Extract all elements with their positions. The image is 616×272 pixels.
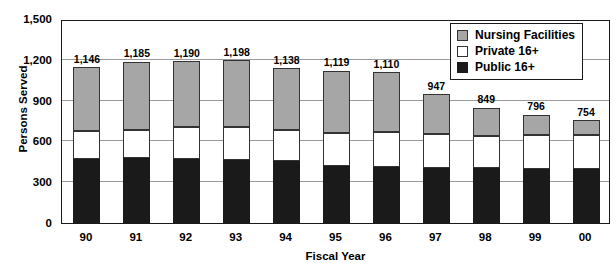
bar-segment-public-16-plus[interactable]	[323, 166, 350, 223]
bar-segment-public-16-plus[interactable]	[573, 169, 600, 223]
x-axis-tick-label-92: 92	[166, 232, 206, 244]
bar-segment-private-16-plus[interactable]	[123, 130, 150, 159]
bar-segment-private-16-plus[interactable]	[73, 131, 100, 159]
bar-value-label: 1,110	[360, 59, 412, 70]
y-axis-tick-label: 0	[6, 218, 52, 230]
y-axis-tick-labels: 03006009001,2001,500	[6, 0, 52, 272]
bar-segment-private-16-plus[interactable]	[423, 134, 450, 168]
x-axis-tick-label-98: 98	[465, 232, 505, 244]
x-axis-tick-label-91: 91	[116, 232, 156, 244]
bar-segment-public-16-plus[interactable]	[273, 161, 300, 223]
bar-segment-public-16-plus[interactable]	[523, 169, 550, 223]
bar-segment-nursing-facilities[interactable]	[323, 71, 350, 133]
bar-segment-private-16-plus[interactable]	[223, 127, 250, 160]
legend-item-label: Public 16+	[475, 61, 535, 73]
bar-97[interactable]	[423, 94, 450, 223]
bar-segment-private-16-plus[interactable]	[573, 135, 600, 169]
bar-segment-nursing-facilities[interactable]	[273, 68, 300, 130]
y-axis-tick-label: 1,500	[6, 14, 52, 26]
chart-legend: Nursing FacilitiesPrivate 16+Public 16+	[450, 23, 583, 80]
bar-segment-private-16-plus[interactable]	[523, 135, 550, 168]
bar-segment-nursing-facilities[interactable]	[423, 94, 450, 133]
bar-92[interactable]	[173, 61, 200, 223]
bar-segment-private-16-plus[interactable]	[173, 127, 200, 160]
y-axis-tick-label: 900	[6, 96, 52, 108]
chart-title	[0, 0, 616, 3]
bar-segment-nursing-facilities[interactable]	[523, 115, 550, 136]
bar-90[interactable]	[73, 67, 100, 223]
x-axis-tick-label-97: 97	[415, 232, 455, 244]
x-axis-tick-label-90: 90	[66, 232, 106, 244]
bar-segment-public-16-plus[interactable]	[423, 168, 450, 223]
public-16-plus-swatch	[457, 62, 468, 73]
bar-segment-public-16-plus[interactable]	[173, 159, 200, 223]
legend-item-private-16-plus[interactable]: Private 16+	[457, 43, 575, 59]
x-axis-title: Fiscal Year	[61, 250, 610, 262]
bar-segment-public-16-plus[interactable]	[223, 160, 250, 223]
x-axis-tick-label-93: 93	[216, 232, 256, 244]
bar-value-label: 1,198	[211, 47, 263, 58]
bar-segment-private-16-plus[interactable]	[273, 130, 300, 161]
bar-96[interactable]	[373, 72, 400, 223]
bar-segment-nursing-facilities[interactable]	[173, 61, 200, 127]
bar-value-label: 754	[560, 107, 612, 118]
bar-value-label: 1,146	[61, 54, 113, 65]
legend-item-public-16-plus[interactable]: Public 16+	[457, 59, 575, 75]
bar-93[interactable]	[223, 60, 250, 223]
bar-segment-nursing-facilities[interactable]	[473, 108, 500, 136]
bar-segment-public-16-plus[interactable]	[123, 158, 150, 223]
bar-segment-private-16-plus[interactable]	[473, 136, 500, 168]
bar-segment-public-16-plus[interactable]	[73, 159, 100, 223]
bar-segment-public-16-plus[interactable]	[373, 167, 400, 223]
x-axis-tick-label-95: 95	[316, 232, 356, 244]
bar-value-label: 947	[410, 81, 462, 92]
bar-00[interactable]	[573, 120, 600, 223]
bar-value-label: 1,138	[261, 55, 313, 66]
x-axis-tick-label-99: 99	[515, 232, 555, 244]
bar-segment-private-16-plus[interactable]	[323, 133, 350, 166]
y-axis-tick-label: 1,200	[6, 55, 52, 67]
x-axis-tick-label-96: 96	[365, 232, 405, 244]
legend-item-nursing-facilities[interactable]: Nursing Facilities	[457, 27, 575, 43]
bar-94[interactable]	[273, 68, 300, 223]
bar-segment-nursing-facilities[interactable]	[573, 120, 600, 135]
bar-segment-nursing-facilities[interactable]	[73, 67, 100, 131]
nursing-facilities-swatch	[457, 30, 468, 41]
x-axis-tick-label-94: 94	[266, 232, 306, 244]
bar-value-label: 849	[460, 94, 512, 105]
private-16-plus-swatch	[457, 46, 468, 57]
bar-98[interactable]	[473, 108, 500, 223]
bar-value-label: 796	[510, 101, 562, 112]
bar-99[interactable]	[523, 115, 550, 223]
bar-95[interactable]	[323, 71, 350, 223]
bar-segment-nursing-facilities[interactable]	[123, 62, 150, 130]
x-axis-tick-labels: 9091929394959697989900	[61, 232, 610, 248]
stacked-bar-chart: Persons Served 03006009001,2001,500 1,14…	[0, 0, 616, 272]
bar-value-label: 1,190	[161, 48, 213, 59]
bar-segment-nursing-facilities[interactable]	[373, 72, 400, 132]
legend-item-label: Private 16+	[475, 45, 539, 57]
bar-value-label: 1,185	[111, 48, 163, 59]
bar-value-label: 1,119	[311, 57, 363, 68]
bar-segment-public-16-plus[interactable]	[473, 168, 500, 223]
bar-91[interactable]	[123, 62, 150, 223]
y-axis-tick-label: 600	[6, 136, 52, 148]
y-axis-tick-label: 300	[6, 177, 52, 189]
bar-segment-private-16-plus[interactable]	[373, 132, 400, 167]
bar-segment-nursing-facilities[interactable]	[223, 60, 250, 127]
x-axis-tick-label-00: 00	[565, 232, 605, 244]
legend-item-label: Nursing Facilities	[475, 29, 575, 41]
